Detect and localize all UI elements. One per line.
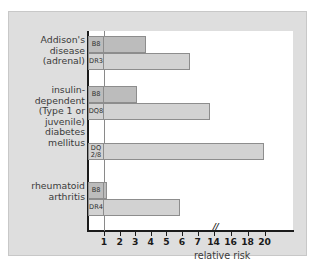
category-label-group: Addison's disease (adrenal) insulin- dep…	[9, 12, 85, 257]
bar-row: DQ8	[88, 103, 210, 120]
chart-panel: Addison's disease (adrenal) insulin- dep…	[8, 11, 307, 256]
bar-row: DQ 2/8	[88, 143, 264, 160]
bar-allele-label: DQ 2/8	[88, 143, 104, 160]
bar-row: B8	[88, 182, 107, 199]
bar-allele-label: B8	[88, 182, 104, 199]
category-label-addisons: Addison's disease (adrenal)	[11, 35, 85, 67]
category-label-rheumatoid: rheumatoid arthritis	[11, 181, 85, 202]
x-tick-label: 20	[255, 236, 275, 247]
axis-break-icon: //	[212, 221, 217, 234]
bar-row: B8	[88, 36, 146, 53]
bar-allele-label: B8	[88, 86, 104, 103]
bar-dq28	[88, 143, 264, 160]
bar-allele-label: B8	[88, 36, 104, 53]
x-axis-title: relative risk	[194, 250, 250, 261]
figure-container: Addison's disease (adrenal) insulin- dep…	[0, 0, 318, 268]
bar-allele-label: DQ8	[88, 103, 104, 120]
category-label-insulin: insulin- dependent (Type 1 or juvenile) …	[11, 85, 85, 149]
x-axis-line	[87, 230, 294, 232]
bar-allele-label: DR4	[88, 199, 104, 216]
bar-row: DR4	[88, 199, 180, 216]
bar-dq8	[88, 103, 210, 120]
bar-allele-label: DR3	[88, 53, 104, 70]
bar-row: B8	[88, 86, 137, 103]
bar-row: DR3	[88, 53, 190, 70]
